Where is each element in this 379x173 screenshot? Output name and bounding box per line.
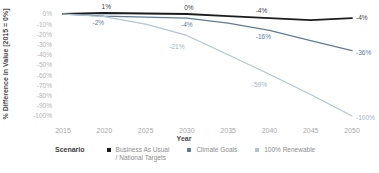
x-axis-title: Year: [177, 135, 192, 142]
y-tick-label: 0%: [43, 10, 53, 17]
x-tick-label: 2030: [179, 127, 195, 134]
data-label-climate-goals-2020: -2%: [93, 19, 105, 26]
y-tick-label: -30%: [37, 41, 52, 48]
y-tick-label: -40%: [37, 51, 52, 58]
y-tick-label: -80%: [37, 92, 52, 99]
x-tick-label: 2015: [55, 127, 71, 134]
legend-title: Scenario: [55, 146, 85, 154]
x-tick-label: 2040: [262, 127, 278, 134]
x-tick-label: 2050: [344, 127, 360, 134]
x-tick-label: 2020: [96, 127, 112, 134]
y-tick-label: -10%: [37, 21, 52, 28]
scenario-value-line-chart: 0%-10%-20%-30%-40%-50%-60%-70%-80%-90%-1…: [0, 0, 379, 173]
x-tick-label: 2045: [303, 127, 319, 134]
legend-item-business-as-usual-national-targets[interactable]: Business As Usual/ National Targets: [107, 146, 170, 162]
y-axis-title: % Difference in Value [2015 = 0%]: [2, 8, 10, 119]
plot-area: 0%-10%-20%-30%-40%-50%-60%-70%-80%-90%-1…: [0, 0, 379, 145]
y-tick-label: -60%: [37, 72, 52, 79]
legend-marker-climate-goals: [187, 148, 191, 152]
data-label-business-as-usual-national-targets-2040: -4%: [256, 7, 268, 14]
data-label-climate-goals-2040: -16%: [256, 33, 271, 40]
legend-label-100-renewable: 100% Renewable: [264, 146, 315, 154]
series-line-100-renewable[interactable]: [63, 14, 352, 116]
y-tick-label: -100%: [33, 112, 52, 119]
data-label-100-renewable-2030: -21%: [169, 43, 184, 50]
data-label-100-renewable-2050: -100%: [356, 114, 375, 121]
x-tick-label: 2035: [220, 127, 236, 134]
y-tick-label: -90%: [37, 102, 52, 109]
legend-item-climate-goals[interactable]: Climate Goals: [187, 146, 237, 154]
legend: Scenario Business As Usual/ National Tar…: [55, 146, 333, 162]
data-label-business-as-usual-national-targets-2020: 1%: [102, 3, 112, 10]
y-tick-label: -50%: [37, 61, 52, 68]
x-tick-label: 2025: [138, 127, 154, 134]
y-tick-label: -20%: [37, 31, 52, 38]
legend-marker-business-as-usual-national-targets: [107, 148, 111, 152]
y-tick-label: -70%: [37, 82, 52, 89]
legend-label-business-as-usual-national-targets: Business As Usual/ National Targets: [116, 146, 170, 162]
data-label-business-as-usual-national-targets-2050: -4%: [356, 14, 368, 21]
data-label-climate-goals-2050: -36%: [356, 49, 371, 56]
data-label-100-renewable-2040: -59%: [252, 81, 267, 88]
data-label-business-as-usual-national-targets-2030: 0%: [184, 4, 194, 11]
legend-label-climate-goals: Climate Goals: [196, 146, 237, 154]
legend-item-100-renewable[interactable]: 100% Renewable: [255, 146, 315, 154]
data-label-climate-goals-2030: -4%: [181, 21, 193, 28]
legend-marker-100-renewable: [255, 148, 259, 152]
